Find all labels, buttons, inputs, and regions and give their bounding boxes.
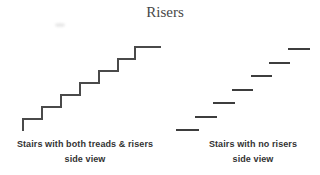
right-figure-caption: Stairs with no risers side view [186,139,320,165]
stairs-with-risers-figure [23,47,161,131]
left-caption-line2: side view [0,154,170,165]
left-figure-caption: Stairs with both treads & risers side vi… [0,139,170,165]
stairs-no-risers-figure [176,49,310,130]
right-caption-line1: Stairs with no risers [186,139,320,150]
right-caption-line2: side view [186,154,320,165]
left-caption-line1: Stairs with both treads & risers [0,139,170,150]
diagram-canvas: Risers Stairs with both treads & risers … [0,0,320,175]
